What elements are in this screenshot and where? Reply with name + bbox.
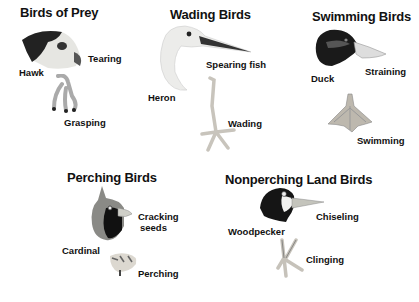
cardinal-head-illustration — [88, 186, 132, 244]
group-title: Wading Birds — [170, 7, 251, 22]
bird-name-label: Cardinal — [62, 245, 100, 256]
beak-function-label: Spearing fish — [206, 59, 266, 70]
group-title: Perching Birds — [67, 170, 157, 185]
foot-function-label: Grasping — [64, 117, 106, 128]
group-title: Birds of Prey — [20, 5, 98, 20]
hawk-foot-illustration — [48, 74, 80, 114]
beak-function-label: Tearing — [88, 53, 122, 64]
foot-function-label: Clinging — [306, 254, 344, 265]
heron-leg-illustration — [198, 76, 248, 156]
duck-foot-illustration — [326, 92, 376, 134]
foot-function-label: Perching — [138, 268, 179, 279]
woodpecker-foot-illustration — [274, 238, 306, 280]
beak-function-label-line2: seeds — [140, 222, 167, 233]
group-title: Nonperching Land Birds — [225, 172, 372, 187]
foot-function-label: Swimming — [357, 135, 405, 146]
bird-name-label: Duck — [311, 73, 334, 84]
foot-function-label: Wading — [228, 118, 262, 129]
bird-name-label: Hawk — [19, 67, 44, 78]
hawk-head-illustration — [18, 26, 83, 72]
beak-function-label: Chiseling — [316, 211, 359, 222]
cardinal-foot-illustration — [106, 250, 140, 278]
beak-function-label: Straining — [365, 66, 406, 77]
bird-name-label: Woodpecker — [228, 226, 285, 237]
beak-function-label-line1: Cracking — [138, 211, 179, 222]
bird-name-label: Heron — [148, 92, 175, 103]
duck-head-illustration — [312, 26, 388, 70]
group-title: Swimming Birds — [312, 9, 411, 24]
